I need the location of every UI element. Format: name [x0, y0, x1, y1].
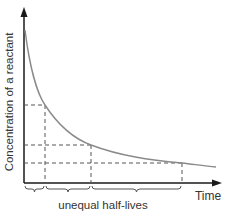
x-axis-label: Time: [195, 189, 222, 203]
x-axis-arrow-icon: [212, 180, 222, 187]
y-axis-arrow-icon: [21, 7, 28, 17]
y-axis-label: Concentration of a reactant: [3, 32, 15, 172]
brace-2: [46, 186, 90, 192]
decay-curve: [25, 30, 216, 167]
half-life-braces: [25, 186, 181, 192]
brace-1: [25, 186, 44, 192]
brace-3: [92, 186, 181, 192]
half-life-chart: Concentration of a reactant Time unequal…: [0, 0, 235, 218]
brace-annotation: unequal half-lives: [58, 199, 148, 211]
half-life-guides: [24, 105, 182, 183]
